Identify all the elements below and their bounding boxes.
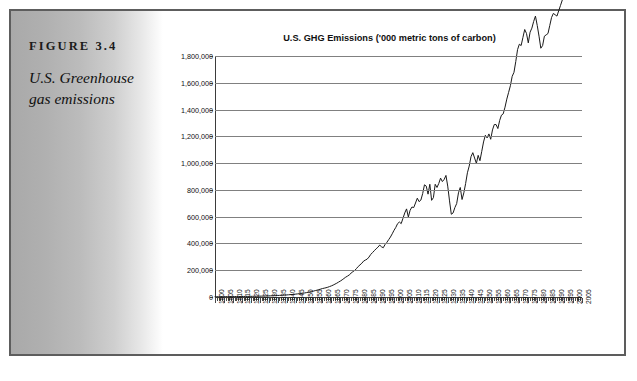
figure-number-label: FIGURE 3.4 [29, 39, 117, 54]
y-axis-labels: 0200,000400,000600,000800,0001,000,0001,… [163, 56, 213, 297]
y-axis-tick-label: 1,600,000 [163, 78, 213, 87]
x-axis-tick-label: 1980 [540, 289, 547, 304]
x-axis-tick-label: 1890 [379, 289, 386, 304]
x-axis-tick-label: 1935 [459, 289, 466, 304]
gridline [215, 136, 582, 137]
y-axis-tick-mark [210, 136, 213, 137]
gridline [215, 270, 582, 271]
chart-area: U.S. GHG Emissions ('000 metric tons of … [163, 11, 624, 354]
x-axis-tick-label: 1975 [531, 289, 538, 304]
x-axis-tick-label: 1875 [352, 289, 359, 304]
x-axis-tick-label: 1830 [271, 289, 278, 304]
x-axis-tick-label: 1870 [343, 289, 350, 304]
y-axis-tick-label: 1,800,000 [163, 52, 213, 61]
x-axis-tick-label: 1910 [415, 289, 422, 304]
emissions-line-series [215, 56, 582, 297]
y-axis-tick-mark [210, 297, 213, 298]
x-axis-tick-label: 1920 [432, 289, 439, 304]
x-axis-tick-label: 1990 [558, 289, 565, 304]
y-axis-tick-mark [210, 243, 213, 244]
y-axis-tick-label: 1,400,000 [163, 105, 213, 114]
gridline [215, 243, 582, 244]
x-axis-tick-label: 1815 [244, 289, 251, 304]
figure-caption-text: U.S. Greenhouse gas emissions [29, 67, 155, 109]
x-axis-tick-label: 1820 [253, 289, 260, 304]
y-axis-tick-mark [210, 110, 213, 111]
plot-area [215, 56, 582, 297]
x-axis-tick-label: 1825 [262, 289, 269, 304]
figure-caption-panel: FIGURE 3.4 U.S. Greenhouse gas emissions [11, 11, 163, 354]
x-axis-tick-label: 1860 [325, 289, 332, 304]
x-axis-tick-label: 1905 [406, 289, 413, 304]
x-axis-tick-label: 1855 [316, 289, 323, 304]
x-axis-tick-label: 1965 [513, 289, 520, 304]
y-axis-tick-mark [210, 56, 213, 57]
y-axis-tick-label: 0 [163, 293, 213, 302]
x-axis-tick-label: 1915 [423, 289, 430, 304]
gridline [215, 217, 582, 218]
x-axis-tick-label: 1900 [397, 289, 404, 304]
x-axis-tick-label: 1895 [388, 289, 395, 304]
y-axis-tick-mark [210, 270, 213, 271]
x-axis-tick-label: 1840 [289, 289, 296, 304]
x-axis-tick-label: 1865 [334, 289, 341, 304]
x-axis-labels: 1800180518101815182018251830183518401845… [215, 298, 582, 356]
x-axis-tick-label: 1940 [468, 289, 475, 304]
gridline [215, 190, 582, 191]
x-axis-tick-label: 1995 [567, 289, 574, 304]
chart-title: U.S. GHG Emissions ('000 metric tons of … [163, 33, 616, 43]
x-axis-tick-label: 1925 [441, 289, 448, 304]
x-axis-tick-label: 1805 [227, 289, 234, 304]
x-axis-tick-label: 1945 [477, 289, 484, 304]
x-axis-tick-label: 1985 [549, 289, 556, 304]
x-axis-tick-label: 1885 [370, 289, 377, 304]
y-axis-tick-label: 1,200,000 [163, 132, 213, 141]
x-axis-tick-label: 1960 [504, 289, 511, 304]
y-axis-tick-mark [210, 163, 213, 164]
x-axis-tick-label: 1800 [218, 289, 225, 304]
figure-frame: FIGURE 3.4 U.S. Greenhouse gas emissions… [9, 9, 626, 356]
y-axis-tick-mark [210, 190, 213, 191]
x-axis-tick-label: 1950 [486, 289, 493, 304]
x-axis-tick-label: 1970 [522, 289, 529, 304]
x-axis-tick-label: 1880 [361, 289, 368, 304]
y-axis-tick-label: 400,000 [163, 239, 213, 248]
x-axis-tick-label: 1850 [307, 289, 314, 304]
y-axis-tick-mark [210, 217, 213, 218]
x-axis-tick-label: 2000 [576, 289, 583, 304]
x-axis-tick-label: 1930 [450, 289, 457, 304]
x-axis-tick-label: 1955 [495, 289, 502, 304]
x-axis-tick-label: 1845 [298, 289, 305, 304]
gridline [215, 163, 582, 164]
y-axis-tick-label: 600,000 [163, 212, 213, 221]
y-axis-tick-label: 1,000,000 [163, 159, 213, 168]
x-axis-tick-label: 1835 [280, 289, 287, 304]
gridline [215, 110, 582, 111]
y-axis-tick-mark [210, 83, 213, 84]
x-axis-tick-label: 2005 [585, 289, 592, 304]
y-axis-tick-label: 800,000 [163, 185, 213, 194]
y-axis-tick-label: 200,000 [163, 266, 213, 275]
gridline [215, 83, 582, 84]
gridline [215, 56, 582, 57]
x-axis-tick-label: 1810 [236, 289, 243, 304]
